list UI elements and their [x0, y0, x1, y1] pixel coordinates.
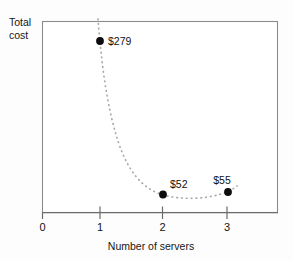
- x-tick-label-1: 1: [97, 221, 103, 233]
- chart-figure: 0 1 2 3 Total cost Number of servers $27…: [0, 0, 293, 260]
- data-label-279: $279: [108, 35, 132, 47]
- data-label-55: $55: [213, 174, 231, 186]
- data-point-3-servers[interactable]: [224, 188, 232, 196]
- x-tick-label-2: 2: [159, 221, 165, 233]
- total-cost-vs-servers-chart: 0 1 2 3 Total cost Number of servers $27…: [0, 0, 293, 260]
- x-tick-label-3: 3: [224, 221, 230, 233]
- data-point-1-server[interactable]: [96, 37, 104, 45]
- plot-frame: [43, 22, 278, 213]
- data-point-2-servers[interactable]: [159, 191, 167, 199]
- data-label-52: $52: [170, 178, 188, 190]
- x-axis-title: Number of servers: [108, 240, 194, 252]
- y-axis-label-line1: Total: [9, 16, 31, 28]
- y-axis-label-line2: cost: [9, 29, 28, 41]
- x-tick-label-0: 0: [39, 221, 45, 233]
